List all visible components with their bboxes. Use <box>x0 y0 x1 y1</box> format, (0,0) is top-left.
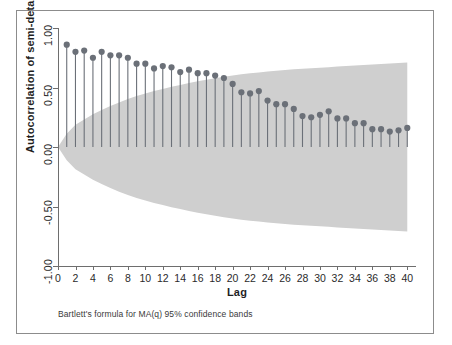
x-axis-tick-label: 28 <box>297 272 309 284</box>
x-axis-tick-label: 36 <box>366 272 378 284</box>
x-axis-tick <box>233 266 234 270</box>
x-axis-tick <box>110 266 111 270</box>
x-axis-tick-label: 16 <box>192 272 204 284</box>
y-axis-line <box>58 28 59 267</box>
x-axis-tick-label: 14 <box>174 272 186 284</box>
y-axis-tick-label: -1.00 <box>42 259 54 284</box>
y-axis-title: Autocorrelation of semi-detached housing… <box>24 0 36 153</box>
x-axis-tick <box>93 266 94 270</box>
x-axis-tick-label: 22 <box>244 272 256 284</box>
x-axis-tick <box>372 266 373 270</box>
x-axis-tick <box>215 266 216 270</box>
x-axis-tick-label: 4 <box>90 272 96 284</box>
x-axis-line <box>58 266 416 267</box>
y-axis-tick-label: 0.50 <box>42 84 54 105</box>
y-axis-tick-label: 1.00 <box>42 25 54 46</box>
x-axis-tick-label: 10 <box>139 272 151 284</box>
x-axis-tick <box>198 266 199 270</box>
x-axis-tick-label: 32 <box>332 272 344 284</box>
y-axis-tick-label: -0.50 <box>42 200 54 225</box>
x-axis-tick <box>390 266 391 270</box>
x-axis-tick <box>407 266 408 270</box>
x-axis-tick-label: 40 <box>401 272 413 284</box>
x-axis-tick <box>250 266 251 270</box>
plot-area <box>58 28 416 266</box>
x-axis-tick <box>320 266 321 270</box>
acf-figure: Autocorrelation of semi-detached housing… <box>0 0 452 345</box>
x-axis-tick <box>145 266 146 270</box>
x-axis-tick-label: 18 <box>209 272 221 284</box>
x-axis-tick-label: 2 <box>73 272 79 284</box>
x-axis-tick <box>355 266 356 270</box>
acf-spikes-series <box>58 28 416 266</box>
x-axis-tick-label: 12 <box>157 272 169 284</box>
x-axis-tick-label: 0 <box>55 272 61 284</box>
x-axis-tick <box>76 266 77 270</box>
x-axis-tick <box>285 266 286 270</box>
x-axis-tick <box>180 266 181 270</box>
x-axis-tick-label: 34 <box>349 272 361 284</box>
chart-footnote: Bartlett's formula for MA(q) 95% confide… <box>58 309 253 319</box>
x-axis-title: Lag <box>58 286 416 298</box>
x-axis-tick <box>303 266 304 270</box>
x-axis-tick <box>337 266 338 270</box>
x-axis-tick-label: 24 <box>262 272 274 284</box>
x-axis-tick-label: 20 <box>227 272 239 284</box>
x-axis-tick-label: 8 <box>125 272 131 284</box>
x-axis-tick <box>128 266 129 270</box>
x-axis-tick-label: 30 <box>314 272 326 284</box>
x-axis-tick-label: 26 <box>279 272 291 284</box>
x-axis-tick-label: 38 <box>384 272 396 284</box>
x-axis-tick <box>163 266 164 270</box>
x-axis-tick <box>268 266 269 270</box>
x-axis-tick <box>58 266 59 270</box>
x-axis-tick-label: 6 <box>107 272 113 284</box>
y-axis-tick-label: 0.00 <box>42 144 54 165</box>
